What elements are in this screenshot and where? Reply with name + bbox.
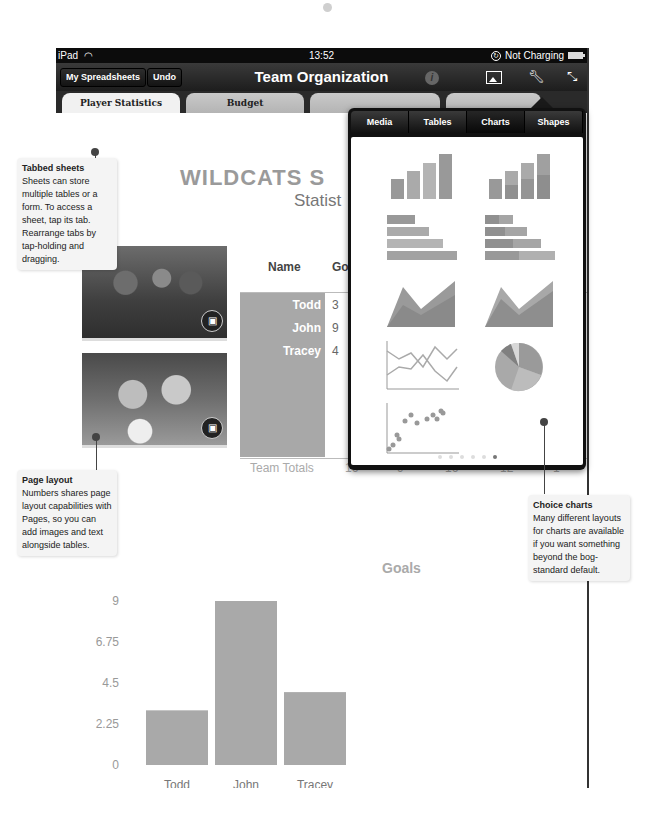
callout-body: Sheets can store multiple tables or a fo…	[22, 176, 98, 264]
callout-tabbed-sheets: Tabbed sheets Sheets can store multiple …	[17, 158, 117, 270]
y-tick-label: 0	[112, 758, 119, 772]
replace-image-icon[interactable]: ▣	[201, 310, 223, 332]
area-chart-thumb[interactable]	[381, 275, 461, 335]
stacked-bar-chart-thumb[interactable]	[479, 209, 559, 269]
bar-todd[interactable]	[146, 710, 208, 765]
bar-chart-thumb[interactable]	[381, 209, 461, 269]
callout-title: Tabbed sheets	[22, 162, 112, 175]
leader-dot	[91, 148, 99, 156]
callout-body: Many different layouts for charts are av…	[533, 513, 624, 575]
callout-page-layout: Page layout Numbers shares page layout c…	[17, 470, 117, 556]
table-cell-goals[interactable]: 3	[332, 298, 339, 312]
callout-title: Page layout	[22, 474, 112, 487]
toolbar: My Spreadsheets Undo Team Organization i…	[56, 63, 587, 91]
callout-body: Numbers shares page layout capabilities …	[22, 488, 112, 550]
y-tick-label: 2.25	[96, 717, 120, 731]
stacked-area-chart-thumb[interactable]	[479, 275, 559, 335]
x-tick-label: Todd	[164, 778, 190, 788]
x-tick-label: Tracey	[297, 778, 333, 788]
tab-budget[interactable]: Budget	[186, 93, 304, 113]
page-dot[interactable]	[438, 455, 442, 459]
status-bar: iPad ◠ 13:52 ↻ Not Charging	[56, 48, 587, 63]
players-photo[interactable]: ▣	[82, 353, 227, 448]
table-cell-name[interactable]: Todd	[293, 298, 321, 312]
page-indicator[interactable]	[351, 455, 583, 459]
stacked-column-chart-thumb[interactable]	[479, 149, 559, 209]
sheet-subtitle: Statist	[294, 191, 341, 211]
page-dot[interactable]	[449, 455, 453, 459]
team-totals-label: Team Totals	[250, 461, 314, 475]
chart-gallery	[351, 137, 583, 465]
scatter-chart-thumb[interactable]	[381, 399, 461, 459]
sheet-title: WILDCATS S	[180, 165, 325, 191]
name-column: Todd John Tracey	[240, 293, 325, 457]
page-dot[interactable]	[482, 455, 486, 459]
battery-icon	[568, 52, 583, 59]
fullscreen-icon[interactable]: ⤡	[564, 69, 580, 85]
page-dot[interactable]	[493, 455, 497, 459]
leader-dot	[92, 433, 100, 441]
bar-john[interactable]	[215, 601, 277, 765]
wrench-icon[interactable]: 🔧︎	[528, 69, 544, 85]
column-chart-thumb[interactable]	[381, 149, 461, 209]
goals-bar-chart[interactable]: 02.254.56.759ToddJohnTracey	[86, 583, 386, 788]
media-icon[interactable]	[486, 71, 502, 84]
popover-tab-charts[interactable]: Charts	[467, 111, 525, 133]
table-cell-name[interactable]: John	[292, 321, 321, 335]
y-tick-label: 6.75	[96, 635, 120, 649]
insert-popover: Media Tables Charts Shapes	[348, 108, 586, 470]
page-dot[interactable]	[460, 455, 464, 459]
undo-button[interactable]: Undo	[147, 68, 182, 87]
tab-player-statistics[interactable]: Player Statistics	[62, 93, 180, 113]
popover-tab-shapes[interactable]: Shapes	[525, 111, 583, 133]
leader-dot	[540, 418, 548, 426]
pie-chart-thumb[interactable]	[479, 337, 559, 397]
my-spreadsheets-button[interactable]: My Spreadsheets	[60, 68, 146, 87]
chart-title: Goals	[382, 560, 421, 576]
rotation-lock-icon: ↻	[491, 51, 501, 61]
table-cell-name[interactable]: Tracey	[283, 344, 321, 358]
callout-title: Choice charts	[533, 499, 625, 512]
bar-tracey[interactable]	[284, 692, 346, 765]
y-tick-label: 4.5	[102, 676, 119, 690]
x-tick-label: John	[233, 778, 259, 788]
table-cell-goals[interactable]: 9	[332, 321, 339, 335]
column-header-name[interactable]: Name	[268, 260, 301, 274]
column-header-goals[interactable]: Go	[332, 260, 349, 274]
popover-tab-tables[interactable]: Tables	[409, 111, 467, 133]
line-chart-thumb[interactable]	[381, 337, 461, 397]
charging-status: Not Charging	[505, 48, 564, 63]
table-cell-goals[interactable]: 4	[332, 344, 339, 358]
info-icon[interactable]: i	[425, 71, 439, 85]
page-dot[interactable]	[471, 455, 475, 459]
popover-tabs: Media Tables Charts Shapes	[351, 111, 583, 133]
leader-line	[96, 437, 97, 470]
y-tick-label: 9	[112, 594, 119, 608]
leader-line	[544, 422, 545, 494]
ipad-camera	[323, 3, 332, 12]
popover-tab-media[interactable]: Media	[351, 111, 409, 133]
replace-image-icon[interactable]: ▣	[201, 417, 223, 439]
callout-choice-charts: Choice charts Many different layouts for…	[528, 495, 630, 581]
